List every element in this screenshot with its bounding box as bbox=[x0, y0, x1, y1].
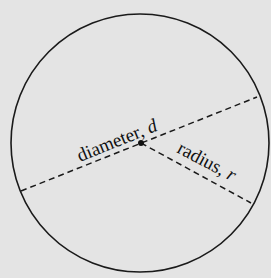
circle-diagram-svg: diameter, d radius, r bbox=[0, 0, 271, 278]
circle-diagram: diameter, d radius, r bbox=[0, 0, 271, 278]
